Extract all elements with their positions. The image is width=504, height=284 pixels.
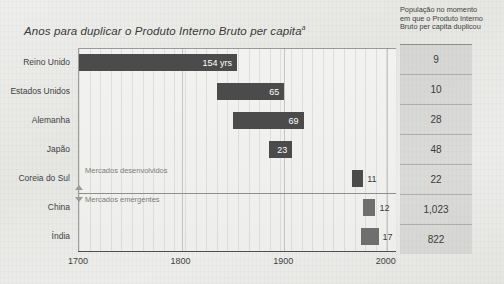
x-axis-line bbox=[78, 251, 396, 252]
group-direction-arrows-icon bbox=[75, 185, 84, 202]
population-column: 9102848221,023822 bbox=[400, 44, 472, 254]
population-value-cell: 1,023 bbox=[400, 195, 472, 225]
triangle-down-icon bbox=[75, 197, 83, 202]
bar: 11 bbox=[352, 170, 363, 187]
plot-top-rule bbox=[79, 48, 396, 49]
century-gridline bbox=[182, 48, 183, 251]
bar: 12 bbox=[363, 199, 375, 216]
population-value-cell: 10 bbox=[400, 75, 472, 105]
category-label: China bbox=[0, 193, 76, 222]
population-value-cell: 22 bbox=[400, 165, 472, 195]
bar: 154 yrs bbox=[79, 54, 237, 71]
chart-title-footnote-marker: a bbox=[302, 24, 306, 31]
category-label: Alemanha bbox=[0, 106, 76, 135]
chart-title-text: Anos para duplicar o Produto Interno Bru… bbox=[24, 25, 302, 37]
category-label: Estados Unidos bbox=[0, 77, 76, 106]
bar: 65 bbox=[217, 83, 284, 100]
population-value-cell: 48 bbox=[400, 135, 472, 165]
triangle-up-icon bbox=[75, 185, 83, 190]
x-tick-label: 1700 bbox=[68, 256, 88, 266]
bar-value-label: 69 bbox=[289, 116, 299, 126]
bar-value-label: 23 bbox=[277, 145, 287, 155]
plot-area: 154 yrs656923111217Mercados desenvolvido… bbox=[78, 48, 396, 251]
chart-title: Anos para duplicar o Produto Interno Bru… bbox=[24, 24, 305, 37]
x-axis-tick-labels: 1700180019002000 bbox=[0, 256, 504, 270]
population-value-cell: 822 bbox=[400, 225, 472, 254]
x-tick-label: 1800 bbox=[171, 256, 191, 266]
x-tick-label: 2000 bbox=[376, 256, 396, 266]
group-separator-rule bbox=[79, 193, 396, 194]
category-label: Índia bbox=[0, 222, 76, 251]
category-label: Japão bbox=[0, 135, 76, 164]
category-label: Coreia do Sul bbox=[0, 164, 76, 193]
bar: 23 bbox=[269, 141, 293, 158]
plot-gridlines bbox=[79, 48, 396, 251]
bar-value-label: 11 bbox=[367, 174, 376, 184]
bar-value-label: 154 yrs bbox=[202, 58, 232, 68]
bar: 17 bbox=[361, 228, 378, 245]
century-gridline bbox=[387, 48, 388, 251]
category-label: Reino Unido bbox=[0, 48, 76, 77]
bar: 69 bbox=[233, 112, 304, 129]
group-annotation-label: Mercados desenvolvidos bbox=[85, 166, 168, 175]
bar-value-label: 17 bbox=[383, 232, 393, 242]
population-value-cell: 28 bbox=[400, 105, 472, 135]
category-label-column: Reino UnidoEstados UnidosAlemanhaJapãoCo… bbox=[0, 48, 76, 251]
bar-value-label: 65 bbox=[269, 87, 279, 97]
chart-figure: Anos para duplicar o Produto Interno Bru… bbox=[0, 0, 504, 284]
bar-value-label: 12 bbox=[379, 203, 389, 213]
group-annotation-label: Mercados emergentes bbox=[85, 195, 160, 204]
x-tick-label: 1900 bbox=[273, 256, 293, 266]
population-column-header: População no momento em que o Produto In… bbox=[400, 6, 486, 32]
population-value-cell: 9 bbox=[400, 45, 472, 75]
